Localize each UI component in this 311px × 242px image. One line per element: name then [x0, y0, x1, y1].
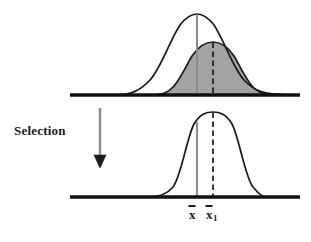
selected-mean-letter: x — [206, 207, 213, 222]
population-mean-label: x — [189, 208, 196, 221]
xbar1-glyph: x — [206, 208, 213, 221]
selection-arrow-head — [94, 155, 106, 168]
selection-annotation-label: Selection — [14, 124, 66, 137]
bottom-panel — [70, 112, 300, 197]
selection-arrow — [94, 108, 106, 168]
selected-mean-subscript: 1 — [213, 213, 218, 223]
selection-diagram — [0, 0, 311, 242]
selected-distribution-curve-bottom — [150, 112, 268, 197]
figure-root: Selection x x1 — [0, 0, 311, 242]
top-panel — [70, 14, 300, 95]
overbar-mark — [206, 205, 213, 207]
selected-distribution-fill-top — [152, 42, 280, 95]
overbar-mark — [189, 205, 196, 207]
selected-mean-label: x1 — [206, 208, 217, 221]
population-mean-letter: x — [189, 207, 196, 222]
xbar-glyph: x — [189, 208, 196, 221]
